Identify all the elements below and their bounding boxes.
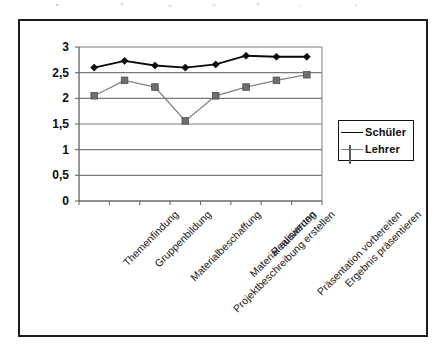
- y-axis-label: 2,5: [35, 67, 69, 79]
- square-icon: [349, 146, 351, 164]
- y-axis-label: 1: [35, 144, 69, 156]
- data-point-marker: [121, 77, 128, 84]
- chart-legend: Schüler Lehrer: [338, 120, 414, 161]
- data-point-marker: [212, 92, 219, 99]
- legend-swatch-lehrer: [339, 143, 365, 157]
- data-point-marker: [273, 53, 280, 60]
- legend-label-schueler: Schüler: [365, 127, 406, 138]
- gridlines-group: [79, 47, 322, 201]
- legend-line-schueler: [341, 132, 363, 134]
- legend-line-lehrer: [341, 149, 363, 151]
- y-axis-label: 1,5: [35, 118, 69, 130]
- series-markers-group: [91, 52, 311, 124]
- data-point-marker: [91, 64, 98, 71]
- y-axis-label: 2: [35, 92, 69, 104]
- y-axis-label: 0: [35, 195, 69, 207]
- data-point-marker: [243, 84, 250, 91]
- legend-swatch-schueler: [339, 126, 365, 140]
- data-point-marker: [242, 52, 249, 59]
- data-point-marker: [152, 84, 159, 91]
- y-axis-label: 0,5: [35, 169, 69, 181]
- data-point-marker: [303, 53, 310, 60]
- data-point-marker: [273, 77, 280, 84]
- data-point-marker: [304, 71, 311, 78]
- data-point-marker: [182, 64, 189, 71]
- legend-item-schueler: Schüler: [339, 124, 415, 141]
- legend-item-lehrer: Lehrer: [339, 141, 415, 158]
- chart-screenshot: 00,511,522,53 ThemenfindungGruppenbildun…: [0, 0, 445, 357]
- data-point-marker: [151, 62, 158, 69]
- legend-label-lehrer: Lehrer: [365, 144, 400, 155]
- data-point-marker: [91, 92, 98, 99]
- x-tick-marks-group: [75, 47, 322, 205]
- data-point-marker: [121, 57, 128, 64]
- data-point-marker: [182, 118, 189, 125]
- series-lines-group: [94, 56, 307, 121]
- y-axis-label: 3: [35, 41, 69, 53]
- data-point-marker: [212, 61, 219, 68]
